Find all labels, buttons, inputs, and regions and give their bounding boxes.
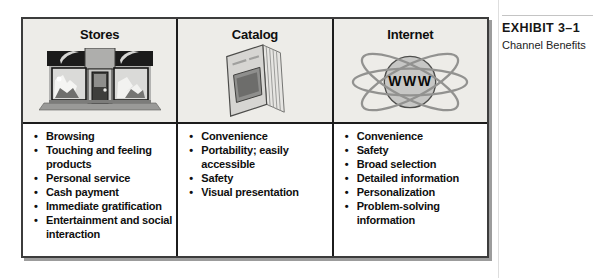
benefit-item: Safety <box>188 171 327 185</box>
benefit-item: Convenience <box>188 129 327 143</box>
benefit-item: Personalization <box>344 185 483 199</box>
catalog-title: Catalog <box>232 27 278 42</box>
stores-icon-wrap <box>39 42 161 122</box>
stores-benefits-cell: Browsing Touching and feeling products P… <box>23 124 176 256</box>
benefit-item: Safety <box>344 143 483 157</box>
benefit-item: Convenience <box>344 129 483 143</box>
stores-header-cell: Stores <box>23 19 176 124</box>
internet-benefits-cell: Convenience Safety Broad selection Detai… <box>334 124 487 256</box>
benefit-item: Visual presentation <box>188 185 327 199</box>
catalog-icon <box>220 42 290 124</box>
internet-icon-wrap: WWW <box>350 42 470 122</box>
catalog-benefit-list: Convenience Portability; easily accessib… <box>188 129 327 199</box>
exhibit-caption-rule <box>502 15 593 16</box>
storefront-icon <box>39 48 161 116</box>
benefit-item: Detailed information <box>344 171 483 185</box>
www-globe-label: WWW <box>388 73 432 89</box>
channel-benefits-table: Stores <box>21 17 489 258</box>
internet-benefit-list: Convenience Safety Broad selection Detai… <box>344 129 483 227</box>
benefit-item: Browsing <box>33 129 172 143</box>
benefit-item: Immediate gratification <box>33 199 172 213</box>
stores-title: Stores <box>80 27 119 42</box>
exhibit-label: EXHIBIT 3–1 <box>502 21 580 35</box>
column-catalog: Catalog Convenience Portability; ea <box>176 19 331 256</box>
catalog-header-cell: Catalog <box>178 19 331 124</box>
column-internet: Internet WWW Convenience <box>332 19 487 256</box>
internet-header-cell: Internet WWW <box>334 19 487 124</box>
page-column-rule <box>498 0 499 278</box>
benefit-item: Personal service <box>33 171 172 185</box>
benefit-item: Touching and feeling products <box>33 143 172 171</box>
stores-benefit-list: Browsing Touching and feeling products P… <box>33 129 172 241</box>
benefit-item: Entertainment and social interaction <box>33 213 172 241</box>
catalog-icon-wrap <box>220 42 290 124</box>
internet-title: Internet <box>387 27 433 42</box>
column-stores: Stores <box>23 19 176 256</box>
catalog-benefits-cell: Convenience Portability; easily accessib… <box>178 124 331 256</box>
exhibit-caption: Channel Benefits <box>502 39 586 51</box>
benefit-item: Broad selection <box>344 157 483 171</box>
benefit-item: Problem-solving information <box>344 199 483 227</box>
benefit-item: Cash payment <box>33 185 172 199</box>
benefit-item: Portability; easily accessible <box>188 143 327 171</box>
www-globe-icon: WWW <box>350 43 470 121</box>
